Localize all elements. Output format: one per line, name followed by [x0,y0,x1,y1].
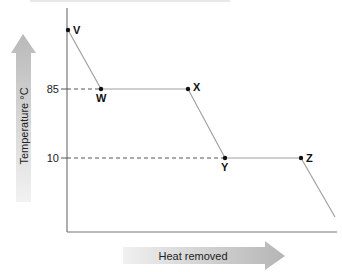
point-dot [99,87,103,91]
temperature-arrow: Temperature °C [11,34,36,202]
x-axis-title: Heat removed [158,250,227,262]
point-dot [66,28,70,32]
point-z: Z [299,152,313,164]
point-label-x: X [193,81,201,93]
point-label-v: V [73,24,81,36]
cooling-curve-diagram: Temperature °C 85 10 V W X Y Z Heat remo… [0,0,342,272]
point-dot [186,87,190,91]
cooling-curve [68,30,335,217]
axes: 85 10 [47,8,337,232]
y-axis-title: Temperature °C [18,87,30,164]
point-dot [299,156,303,160]
tick-label-85: 85 [47,83,59,95]
point-dot [223,156,227,160]
point-x: X [186,81,201,93]
point-label-z: Z [306,152,313,164]
heat-removed-arrow: Heat removed [123,241,285,270]
point-label-y: Y [221,161,229,173]
tick-label-10: 10 [47,152,59,164]
point-v: V [66,24,81,36]
cropped-caption-remnant [30,0,230,2]
point-label-w: W [96,92,107,104]
